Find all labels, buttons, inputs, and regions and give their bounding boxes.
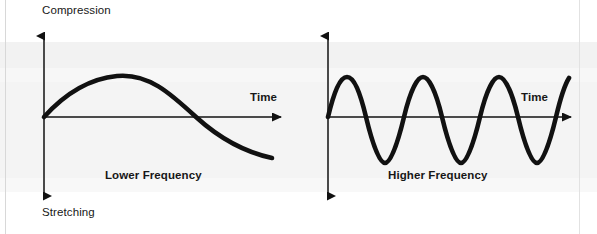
time-axis-label-higher-frequency: Time bbox=[521, 91, 548, 103]
wave-diagram-svg bbox=[0, 0, 597, 234]
higher-frequency-caption: Higher Frequency bbox=[388, 169, 487, 181]
time-axis-label-lower-frequency: Time bbox=[250, 91, 277, 103]
stretching-axis-label: Stretching bbox=[42, 206, 95, 218]
lower-frequency-caption: Lower Frequency bbox=[105, 169, 202, 181]
compression-axis-label: Compression bbox=[42, 4, 111, 16]
higher-frequency-waveform bbox=[328, 77, 569, 163]
wave-frequency-figure: Compression Stretching Time Time Lower F… bbox=[0, 0, 597, 234]
